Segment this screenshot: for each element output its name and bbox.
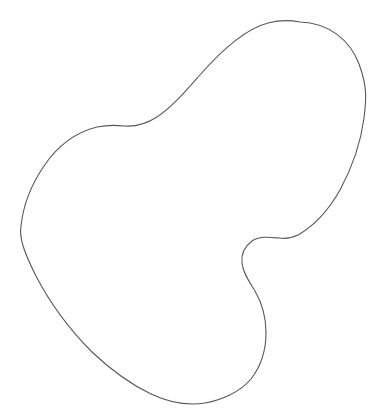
drawing-canvas — [0, 0, 378, 416]
canvas-background — [0, 0, 378, 416]
blob-outline-svg — [0, 0, 378, 416]
